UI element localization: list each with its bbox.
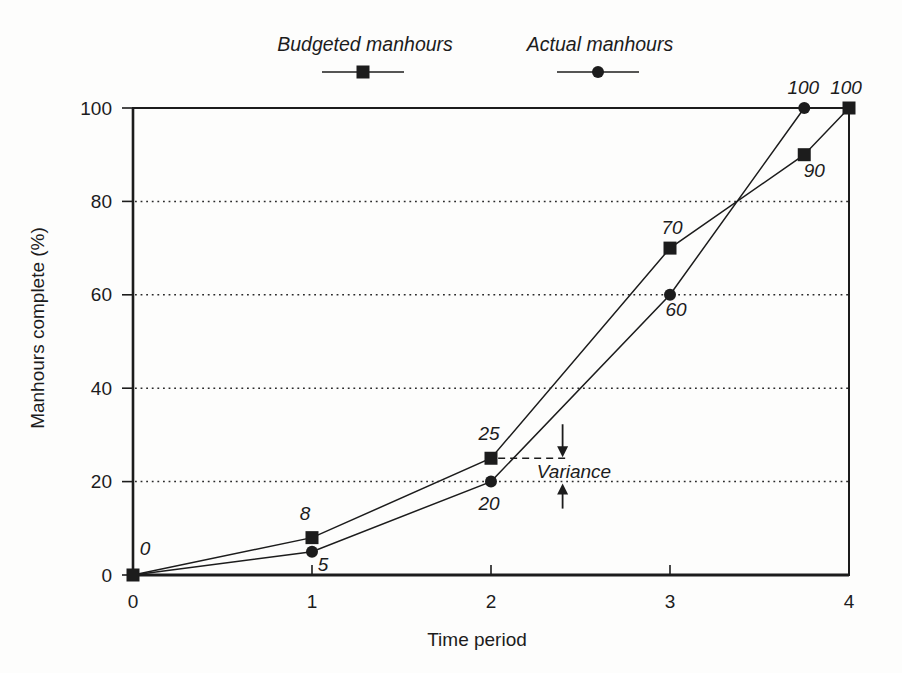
y-tick-label-0: 0 <box>101 565 112 586</box>
legend-square-marker-icon <box>357 66 370 79</box>
legend: Budgeted manhoursActual manhours <box>277 33 673 79</box>
y-tick-label-80: 80 <box>91 191 112 212</box>
budgeted-value-label: 8 <box>300 503 311 524</box>
y-axis-title: Manhours complete (%) <box>27 227 48 429</box>
budgeted-value-label: 70 <box>661 217 683 238</box>
circle-marker <box>485 476 497 488</box>
y-tick-label-100: 100 <box>80 98 112 119</box>
x-tick-label-0: 0 <box>128 591 139 612</box>
variance-annotation: Variance <box>498 424 611 508</box>
budgeted-value-label: 0 <box>140 538 151 559</box>
x-tick-label-2: 2 <box>486 591 497 612</box>
actual-value-label: 5 <box>318 554 329 575</box>
legend-label-budgeted: Budgeted manhours <box>277 33 453 55</box>
actual-line <box>133 108 804 575</box>
actual-value-label: 60 <box>665 299 687 320</box>
legend-circle-marker-icon <box>592 66 604 78</box>
square-marker <box>664 242 677 255</box>
x-tick-label-3: 3 <box>665 591 676 612</box>
figure: 01234 020406080100 0825709010052060100 V… <box>0 0 902 673</box>
x-axis: 01234 <box>128 565 855 612</box>
square-marker <box>485 452 498 465</box>
square-marker <box>306 531 319 544</box>
square-marker <box>843 102 856 115</box>
x-tick-label-4: 4 <box>844 591 855 612</box>
down-arrow-icon <box>557 446 568 457</box>
budgeted-value-label: 100 <box>830 77 862 98</box>
x-tick-label-1: 1 <box>307 591 318 612</box>
circle-marker <box>127 569 139 581</box>
y-tick-label-40: 40 <box>91 378 112 399</box>
data-series: 0825709010052060100 <box>127 77 863 582</box>
x-axis-title: Time period <box>427 629 527 650</box>
chart-canvas: 01234 020406080100 0825709010052060100 V… <box>0 0 902 673</box>
variance-label: Variance <box>537 461 611 482</box>
circle-marker <box>798 102 810 114</box>
actual-value-label: 20 <box>477 493 500 514</box>
y-tick-label-20: 20 <box>91 471 112 492</box>
budgeted-value-label: 90 <box>804 160 826 181</box>
circle-marker <box>306 546 318 558</box>
actual-value-label: 100 <box>787 77 819 98</box>
up-arrow-icon <box>557 484 568 495</box>
legend-label-actual: Actual manhours <box>526 33 674 55</box>
budgeted-value-label: 25 <box>477 423 500 444</box>
y-axis: 020406080100 <box>80 98 133 586</box>
y-tick-label-60: 60 <box>91 284 112 305</box>
